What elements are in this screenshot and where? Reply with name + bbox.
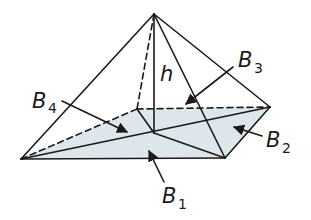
- height-label: h: [160, 62, 173, 86]
- label-b1-main: B: [162, 184, 176, 208]
- arrow-b3: [186, 67, 233, 104]
- pyramid-diagram: h B 4 B 3 B 2 B 1: [0, 0, 311, 220]
- label-b3: B 3: [238, 48, 263, 76]
- label-b3-main: B: [238, 48, 252, 72]
- label-b4: B 4: [32, 89, 57, 116]
- edge-front: [21, 158, 225, 159]
- hidden-edge-apex-back: [137, 14, 154, 109]
- label-b2-main: B: [266, 128, 280, 152]
- label-b2-sub: 2: [282, 140, 291, 156]
- label-b2: B 2: [266, 128, 291, 156]
- label-b3-sub: 3: [254, 60, 263, 76]
- edge-apex-right: [154, 14, 270, 107]
- label-b4-main: B: [32, 89, 46, 113]
- label-b1-sub: 1: [178, 196, 187, 212]
- label-b4-sub: 4: [48, 100, 57, 116]
- label-b1: B 1: [162, 184, 187, 212]
